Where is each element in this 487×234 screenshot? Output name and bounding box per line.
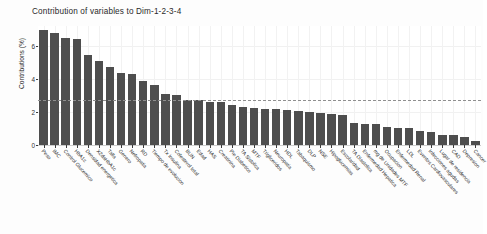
bar — [161, 94, 169, 145]
bar-slot — [127, 26, 138, 145]
bar-slot — [193, 26, 204, 145]
bar — [350, 123, 358, 145]
bar-slot — [404, 26, 415, 145]
bar — [194, 100, 202, 145]
x-axis-tick-label: RD — [140, 148, 149, 157]
bar — [427, 132, 435, 145]
bar — [50, 33, 58, 145]
bar — [361, 124, 369, 145]
bar-slot — [370, 26, 381, 145]
bar-slot — [104, 26, 115, 145]
bar-slot — [293, 26, 304, 145]
chart-title: Contribution of variables to Dim-1-2-3-4 — [32, 7, 181, 16]
bar-slot — [248, 26, 259, 145]
bar-slot — [204, 26, 215, 145]
bar-slot — [326, 26, 337, 145]
bar-slot — [282, 26, 293, 145]
bar — [283, 110, 291, 145]
bar — [338, 115, 346, 145]
reference-line — [38, 100, 481, 101]
x-axis-tick-label: NSE — [317, 148, 328, 160]
bar-slot — [315, 26, 326, 145]
bar-slot — [116, 26, 127, 145]
bar-slot — [304, 26, 315, 145]
bar — [394, 128, 402, 145]
bar — [39, 30, 47, 145]
bar — [217, 102, 225, 145]
bar — [139, 81, 147, 145]
bar-slot — [38, 26, 49, 145]
bar-slot — [71, 26, 82, 145]
bar-slot — [393, 26, 404, 145]
bar — [416, 131, 424, 145]
x-axis-tick-label: Peso — [40, 148, 52, 161]
bar-slot — [93, 26, 104, 145]
bar — [228, 105, 236, 145]
bar-slot — [459, 26, 470, 145]
bar — [172, 95, 180, 145]
bar-slot — [49, 26, 60, 145]
bar-slot — [60, 26, 71, 145]
bar-slot — [215, 26, 226, 145]
bar — [294, 111, 302, 145]
bar — [250, 108, 258, 145]
bar-slot — [426, 26, 437, 145]
bar-slot — [348, 26, 359, 145]
y-axis: 0246 — [0, 26, 38, 145]
bar — [106, 67, 114, 145]
bar — [449, 135, 457, 145]
bar-slot — [260, 26, 271, 145]
bar — [327, 114, 335, 145]
bar — [405, 128, 413, 145]
bar — [261, 109, 269, 145]
bar-slot — [138, 26, 149, 145]
x-axis-tick-label: Edad — [195, 148, 207, 161]
bar-slot — [171, 26, 182, 145]
bar-slot — [82, 26, 93, 145]
bar — [305, 112, 313, 145]
bar — [117, 73, 125, 145]
bar-slot — [237, 26, 248, 145]
y-axis-tick-label: 2 — [31, 108, 35, 115]
bar — [95, 61, 103, 145]
bar-slot — [381, 26, 392, 145]
bar — [150, 85, 158, 145]
y-axis-tick-label: 0 — [31, 142, 35, 149]
bar-slot — [359, 26, 370, 145]
bar-slot — [149, 26, 160, 145]
bar — [460, 137, 468, 145]
y-axis-tick-label: 6 — [31, 42, 35, 49]
x-axis-labels: PesoIMCControl GlucemicoHbA1cDensidad en… — [38, 148, 481, 232]
x-axis-tick-label: HAS — [206, 148, 217, 160]
bar — [128, 74, 136, 145]
bar — [183, 100, 191, 145]
bar-slot — [448, 26, 459, 145]
bar — [383, 127, 391, 145]
x-axis-tick-label: IMC — [51, 148, 62, 159]
bar-slot — [437, 26, 448, 145]
bar-slot — [182, 26, 193, 145]
bar-slot — [337, 26, 348, 145]
bar — [61, 38, 69, 145]
bar-slot — [470, 26, 481, 145]
bar — [206, 102, 214, 145]
bar-slot — [415, 26, 426, 145]
bar-series — [38, 26, 481, 145]
y-axis-tick-label: 4 — [31, 75, 35, 82]
bar — [272, 109, 280, 145]
bar-slot — [160, 26, 171, 145]
bar — [73, 39, 81, 145]
bar — [239, 107, 247, 145]
bar-slot — [271, 26, 282, 145]
plot-area — [38, 26, 481, 145]
bar — [316, 113, 324, 145]
bar-slot — [226, 26, 237, 145]
bar — [438, 135, 446, 145]
bar — [372, 124, 380, 145]
